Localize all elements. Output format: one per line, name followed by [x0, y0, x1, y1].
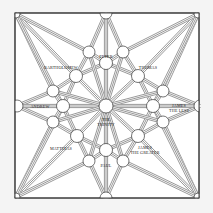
node-upper-right [157, 85, 169, 97]
label-thomas: THOMAS [139, 65, 158, 70]
label-matthias: MATTHIAS [50, 146, 73, 151]
node-james-less [147, 100, 160, 113]
node-peter-left [83, 46, 95, 58]
node-thomas [132, 70, 145, 83]
label-james-less-line2: THE LESS [169, 108, 189, 113]
node-paul [100, 144, 113, 157]
node-paul-right [117, 155, 129, 167]
node-trinity [99, 99, 113, 113]
node-matthias [71, 130, 84, 143]
label-trinity-line2: TRINITY [97, 122, 114, 127]
node-lower-right [157, 116, 169, 128]
node-upper-left [47, 85, 59, 97]
apostles-diagram: PETER BARTHOLOMEW THOMAS ANDREW THE TRIN… [0, 0, 213, 213]
node-peter-right [117, 46, 129, 58]
label-paul: PAUL [101, 163, 112, 168]
label-bartholomew: BARTHOLOMEW [44, 65, 78, 70]
node-lower-left [47, 116, 59, 128]
label-james-greater-line2: THE GREATER [130, 150, 159, 155]
node-bartholomew [70, 70, 83, 83]
node-paul-left [83, 155, 95, 167]
label-andrew: ANDREW [31, 104, 50, 109]
edge-bottom-paul [104, 150, 107, 198]
node-andrew [57, 100, 70, 113]
label-peter: PETER [99, 54, 112, 59]
node-james-greater [132, 130, 145, 143]
